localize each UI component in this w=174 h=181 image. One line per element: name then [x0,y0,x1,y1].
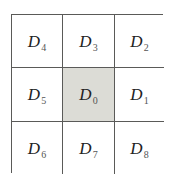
cell-subscript: 0 [93,95,98,106]
cell-d1: D1 [115,68,164,122]
cell-label: D3 [79,33,97,50]
cell-symbol: D [130,85,142,104]
cell-d4: D4 [12,15,63,68]
cell-subscript: 6 [41,149,46,160]
cell-label: D7 [79,140,97,157]
cell-symbol: D [79,139,91,158]
cell-d6: D6 [12,122,63,174]
cell-symbol: D [79,85,91,104]
cell-d0-center: D0 [63,68,115,122]
cell-symbol: D [130,139,142,158]
cell-label: D5 [28,86,46,103]
cell-subscript: 1 [144,95,149,106]
cell-d8: D8 [115,122,164,174]
cell-symbol: D [28,139,40,158]
cell-subscript: 5 [41,95,46,106]
cell-label: D6 [28,140,46,157]
cell-symbol: D [79,32,91,51]
cell-d2: D2 [115,15,164,68]
cell-subscript: 3 [93,42,98,53]
cell-d3: D3 [63,15,115,68]
cell-d7: D7 [63,122,115,174]
cell-label: D1 [130,86,148,103]
cell-symbol: D [28,32,40,51]
cell-label: D8 [130,140,148,157]
cell-label: D2 [130,33,148,50]
cell-label: D0 [79,86,97,103]
neighborhood-grid: D4 D3 D2 D5 D0 D1 D6 D7 D8 [11,14,163,173]
cell-subscript: 2 [144,42,149,53]
cell-symbol: D [130,32,142,51]
cell-d5: D5 [12,68,63,122]
cell-subscript: 4 [41,42,46,53]
cell-label: D4 [28,33,46,50]
cell-subscript: 8 [144,149,149,160]
cell-symbol: D [28,85,40,104]
cell-subscript: 7 [93,149,98,160]
